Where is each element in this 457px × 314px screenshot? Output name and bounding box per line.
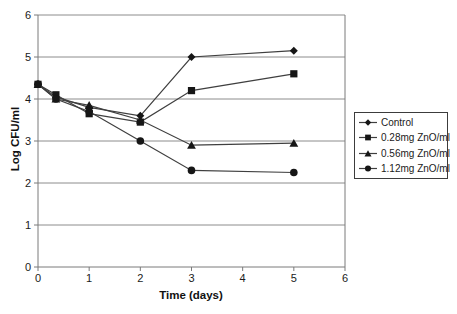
circle-marker <box>52 95 60 103</box>
triangle-marker-icon <box>359 149 377 158</box>
x-tick-label: 0 <box>35 272 41 284</box>
y-tick-label: 4 <box>25 93 31 105</box>
square-marker <box>188 87 195 94</box>
y-tick-label: 5 <box>25 51 31 63</box>
legend: Control 0.28mg ZnO/ml 0.56mg ZnO/ml 1.12… <box>354 112 448 179</box>
y-tick-label: 3 <box>25 135 31 147</box>
y-tick-label: 6 <box>25 9 31 21</box>
legend-item-1-12mg: 1.12mg ZnO/ml <box>359 163 447 174</box>
series-line-3 <box>38 84 294 172</box>
line-chart-figure: 01234560123456 Log CFU/ml Time (days) Co… <box>0 0 457 314</box>
square-marker <box>365 135 371 141</box>
legend-label: Control <box>381 117 413 128</box>
x-axis-title: Time (days) <box>131 289 251 301</box>
circle-marker <box>137 137 145 145</box>
square-marker-icon <box>359 133 377 142</box>
y-tick-label: 1 <box>25 219 31 231</box>
circle-marker <box>85 108 93 116</box>
legend-label: 0.28mg ZnO/ml <box>381 132 450 143</box>
legend-item-0-28mg: 0.28mg ZnO/ml <box>359 132 447 143</box>
x-tick-label: 4 <box>240 272 246 284</box>
diamond-marker <box>290 47 298 55</box>
y-tick-label: 2 <box>25 177 31 189</box>
x-tick-label: 1 <box>86 272 92 284</box>
x-tick-label: 6 <box>342 272 348 284</box>
circle-marker <box>188 167 196 175</box>
x-tick-label: 3 <box>188 272 194 284</box>
y-axis-title: Log CFU/ml <box>9 79 21 199</box>
legend-label: 0.56mg ZnO/ml <box>381 148 450 159</box>
series-line-2 <box>38 84 294 145</box>
circle-marker-icon <box>359 164 377 173</box>
legend-label: 1.12mg ZnO/ml <box>381 163 450 174</box>
diamond-marker-icon <box>359 118 377 127</box>
circle-marker <box>34 81 42 89</box>
circle-marker <box>290 169 298 177</box>
square-marker <box>290 70 297 77</box>
y-tick-label: 0 <box>25 261 31 273</box>
x-tick-label: 5 <box>291 272 297 284</box>
diamond-marker <box>365 119 371 125</box>
legend-item-0-56mg: 0.56mg ZnO/ml <box>359 148 447 159</box>
series-line-1 <box>38 74 294 122</box>
legend-item-control: Control <box>359 117 447 128</box>
x-tick-label: 2 <box>137 272 143 284</box>
circle-marker <box>365 165 371 171</box>
